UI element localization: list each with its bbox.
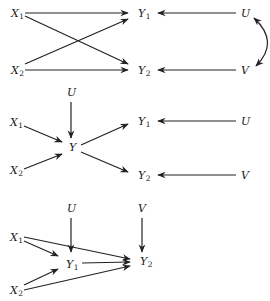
arrow-y-to-y2 xyxy=(81,152,128,172)
node-u: U xyxy=(241,7,251,20)
node-y2: Y2 xyxy=(140,255,153,269)
node-subscript: 2 xyxy=(19,69,24,78)
node-x1: X1 xyxy=(9,231,23,245)
node-y2: Y2 xyxy=(138,169,151,183)
node-v: V xyxy=(241,169,250,182)
node-x1: X1 xyxy=(10,7,24,21)
node-subscript: 1 xyxy=(18,236,23,245)
node-y2: Y2 xyxy=(138,64,151,78)
diagram-top: X1X2Y1Y2UV xyxy=(10,7,268,78)
node-subscript: 2 xyxy=(148,260,153,269)
node-subscript: 1 xyxy=(146,120,151,129)
arrow-y-to-y1 xyxy=(81,124,128,145)
node-subscript: 1 xyxy=(18,121,23,130)
arrow-x2-to-y xyxy=(24,154,62,169)
node-v: V xyxy=(138,202,147,215)
node-y1: Y1 xyxy=(66,258,79,272)
node-subscript: 2 xyxy=(146,174,151,183)
node-subscript: 1 xyxy=(19,12,24,21)
node-y: Y xyxy=(69,141,78,154)
node-v: V xyxy=(241,64,250,77)
diagram-bottom: UVX1Y1Y2X2 xyxy=(9,202,153,298)
node-subscript: 1 xyxy=(146,12,151,21)
node-y1: Y1 xyxy=(138,7,151,21)
node-subscript: 2 xyxy=(18,289,23,298)
node-x2: X2 xyxy=(10,64,24,78)
arrow-y1-to-y2 xyxy=(82,262,130,263)
arrow-x1-to-y xyxy=(24,126,62,142)
node-subscript: 2 xyxy=(146,69,151,78)
diagram-middle: UX1YX2Y1Y2UV xyxy=(9,86,251,183)
node-subscript: 1 xyxy=(74,263,79,272)
path-diagrams: X1X2Y1Y2UV UX1YX2Y1Y2UV UVX1Y1Y2X2 xyxy=(0,0,270,301)
arrow-x2-to-y1 xyxy=(24,269,58,285)
node-x2: X2 xyxy=(9,164,23,178)
node-u_right: U xyxy=(241,115,251,128)
node-x1: X1 xyxy=(9,116,23,130)
node-y1: Y1 xyxy=(138,115,151,129)
node-u_top: U xyxy=(67,86,77,99)
correlation-arrow-u-v xyxy=(254,18,268,66)
node-subscript: 2 xyxy=(18,169,23,178)
node-u: U xyxy=(67,202,77,215)
node-x2: X2 xyxy=(9,284,23,298)
